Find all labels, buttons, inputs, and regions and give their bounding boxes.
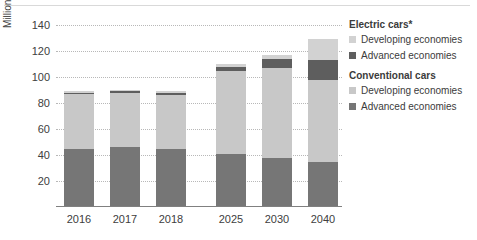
square-swatch-icon: [349, 103, 356, 110]
bar-2016: [64, 91, 94, 207]
y-tick-label-120: 120: [10, 46, 50, 56]
legend-item-label: Developing economies: [361, 85, 462, 96]
legend-group-1: Conventional carsDeveloping economiesAdv…: [349, 70, 473, 112]
legend-item-label: Advanced economies: [361, 50, 457, 61]
x-tick-label-2030: 2030: [254, 213, 300, 225]
gridline-80: [56, 103, 342, 104]
gridline-120: [56, 51, 342, 52]
legend-item[interactable]: Advanced economies: [349, 101, 473, 112]
legend-group-0: Electric cars*Developing economiesAdvanc…: [349, 19, 473, 61]
bar-segment-conventional_developing-2025: [216, 71, 246, 154]
bar-2030: [262, 55, 292, 207]
bar-segment-electric_advanced-2030: [262, 59, 292, 68]
gridline-60: [56, 129, 342, 130]
gridline-100: [56, 77, 342, 78]
y-tick-label-80: 80: [10, 98, 50, 108]
top-divider: [4, 5, 470, 6]
bar-segment-conventional_developing-2030: [262, 68, 292, 158]
legend-item-label: Developing economies: [361, 34, 462, 45]
bar-segment-conventional_developing-2016: [64, 94, 94, 149]
bar-segment-conventional_advanced-2030: [262, 158, 292, 207]
y-tick-label-20: 20: [10, 176, 50, 186]
x-axis-line: [56, 206, 342, 207]
bar-segment-conventional_developing-2017: [110, 93, 140, 148]
bar-segment-conventional_advanced-2018: [156, 149, 186, 208]
x-tick-label-2040: 2040: [300, 213, 346, 225]
legend-group-title: Conventional cars: [349, 70, 473, 81]
legend-item[interactable]: Developing economies: [349, 34, 473, 45]
bar-segment-conventional_developing-2040: [308, 80, 338, 162]
bar-2040: [308, 39, 338, 207]
bar-segment-conventional_advanced-2017: [110, 147, 140, 207]
x-tick-label-2017: 2017: [102, 213, 148, 225]
bar-segment-conventional_advanced-2016: [64, 149, 94, 208]
square-swatch-icon: [349, 52, 356, 59]
chart-container: Million 14012010080604020 20162017201820…: [0, 0, 477, 240]
bar-segment-electric_advanced-2040: [308, 60, 338, 80]
chart-legend: Electric cars*Developing economiesAdvanc…: [349, 19, 473, 121]
square-swatch-icon: [349, 87, 356, 94]
bar-segment-electric_developing-2040: [308, 39, 338, 60]
bar-segment-conventional_developing-2018: [156, 95, 186, 148]
legend-item-label: Advanced economies: [361, 101, 457, 112]
square-swatch-icon: [349, 36, 356, 43]
x-tick-label-2025: 2025: [208, 213, 254, 225]
y-tick-label-100: 100: [10, 72, 50, 82]
x-tick-label-2016: 2016: [56, 213, 102, 225]
y-tick-label-140: 140: [10, 20, 50, 30]
bar-2017: [110, 90, 140, 207]
bar-segment-conventional_advanced-2040: [308, 162, 338, 208]
x-tick-label-2018: 2018: [148, 213, 194, 225]
gridline-20: [56, 181, 342, 182]
bar-segment-conventional_advanced-2025: [216, 154, 246, 207]
bar-2018: [156, 91, 186, 207]
gridline-40: [56, 155, 342, 156]
gridline-140: [56, 25, 342, 26]
legend-group-title: Electric cars*: [349, 19, 473, 30]
bar-2025: [216, 64, 246, 207]
legend-item[interactable]: Advanced economies: [349, 50, 473, 61]
y-tick-label-40: 40: [10, 150, 50, 160]
plot-area: [56, 25, 342, 207]
y-tick-label-60: 60: [10, 124, 50, 134]
legend-item[interactable]: Developing economies: [349, 85, 473, 96]
